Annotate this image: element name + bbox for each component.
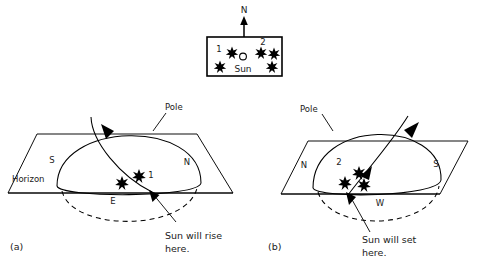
panel-b-group: 2 Pole N S W Sun will set here. (b) <box>268 104 468 258</box>
panel-a-compass-left: S <box>49 155 54 165</box>
inset-sun-label: Sun <box>234 64 251 74</box>
panel-b-compass-left: N <box>301 160 307 170</box>
panel-a-star-label: 1 <box>148 170 153 180</box>
panel-a-annotation-leader <box>153 194 176 222</box>
inset-sun-marker <box>240 53 247 60</box>
panel-b-star-label: 2 <box>336 157 341 167</box>
panel-a-annotation-line2: here. <box>165 243 189 254</box>
panel-a-compass-front: E <box>110 196 115 206</box>
panel-b-dome-outline <box>313 134 441 188</box>
panel-a-star <box>115 176 129 190</box>
inset-star <box>268 48 280 61</box>
panel-b-caption: (b) <box>268 241 281 252</box>
sky-inset-group: N 1 2 Sun <box>207 5 282 76</box>
panel-b-pole-label: Pole <box>300 104 318 114</box>
panel-b-star <box>338 176 352 190</box>
panel-a-dome-outline <box>57 136 201 186</box>
astronomy-figure: N 1 2 Sun <box>0 0 488 266</box>
panel-a-horizon-label: Horizon <box>12 174 45 184</box>
panel-b-ecliptic-arc <box>348 116 408 195</box>
panel-b-ecliptic-arrowhead <box>404 122 419 138</box>
panel-a-pole-label: Pole <box>165 102 183 112</box>
panel-a-group: 1 Pole S N E Horizon Sun will rise here.… <box>8 102 233 254</box>
panel-a-annotation-line1: Sun will rise <box>165 230 222 241</box>
inset-star <box>214 61 226 74</box>
panel-b-dome-base-front <box>313 180 441 195</box>
inset-north-arrow-head <box>240 16 248 25</box>
panel-b-annotation-line2: here. <box>362 247 386 258</box>
inset-star-label-2: 2 <box>260 37 265 47</box>
inset-star-label-1: 1 <box>216 44 221 54</box>
inset-star <box>226 47 238 60</box>
inset-star <box>266 61 278 74</box>
inset-north-label: N <box>241 5 248 15</box>
panel-a-pole-leader <box>153 113 166 131</box>
panel-b-pole-leader <box>322 114 333 131</box>
panel-a-compass-right: N <box>184 157 190 167</box>
panel-b-annotation-line1: Sun will set <box>362 234 417 245</box>
panel-b-annotation-leader <box>350 196 370 232</box>
panel-b-compass-right: S <box>433 159 438 169</box>
panel-a-caption: (a) <box>10 241 23 252</box>
panel-b-compass-front: W <box>376 198 385 208</box>
inset-star <box>255 47 267 60</box>
